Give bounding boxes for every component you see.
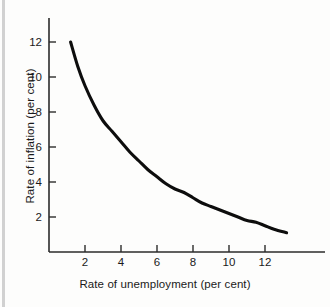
y-axis-title: Rate of inflation (per cent) [24,31,36,241]
x-ticks-group: 24681012 [82,245,272,268]
x-tick-label: 6 [154,256,160,268]
y-tick-label: 8 [36,106,42,118]
x-tick-label: 4 [118,256,125,268]
x-axis-title: Rate of unemployment (per cent) [0,278,330,290]
y-tick-label: 2 [36,211,42,223]
phillips-curve-figure: 24681012 24681012 Rate of unemployment (… [0,0,330,307]
y-tick-label: 6 [36,141,42,153]
x-tick-label: 12 [259,256,272,268]
x-tick-label: 8 [190,256,196,268]
chart-plot-area: 24681012 24681012 [0,0,330,307]
x-tick-label: 10 [223,256,236,268]
axes-group [49,18,325,252]
x-tick-label: 2 [82,256,88,268]
phillips-curve-path [71,42,287,233]
data-curve-group [71,42,287,233]
y-tick-label: 4 [36,176,43,188]
